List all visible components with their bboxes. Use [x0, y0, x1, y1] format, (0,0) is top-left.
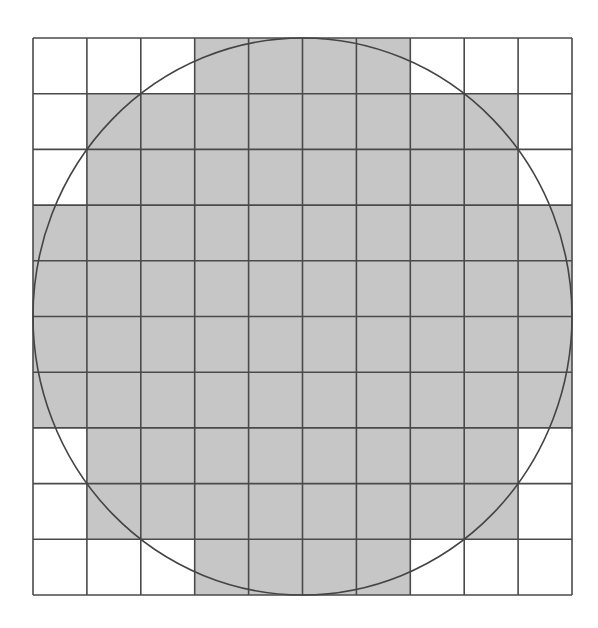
shaded-cell — [141, 94, 195, 150]
shaded-cell — [464, 149, 518, 205]
shaded-cell — [249, 261, 303, 317]
shaded-cell — [195, 261, 249, 317]
shaded-cell — [356, 94, 410, 150]
shaded-cell — [518, 372, 572, 428]
shaded-cell — [356, 205, 410, 261]
shaded-cell — [464, 372, 518, 428]
shaded-cell — [356, 317, 410, 373]
shaded-cell — [141, 317, 195, 373]
shaded-cell — [303, 94, 357, 150]
shaded-cell — [195, 372, 249, 428]
shaded-cell — [303, 484, 357, 540]
shaded-cell — [303, 205, 357, 261]
shaded-cell — [464, 428, 518, 484]
shaded-cell — [195, 484, 249, 540]
shaded-cell — [410, 261, 464, 317]
shaded-cell — [464, 94, 518, 150]
shaded-cell — [249, 428, 303, 484]
shaded-cell — [141, 205, 195, 261]
shaded-cell — [249, 539, 303, 595]
shaded-cell — [356, 428, 410, 484]
shaded-cell — [195, 149, 249, 205]
shaded-cell — [195, 317, 249, 373]
shaded-cell — [33, 261, 87, 317]
shaded-cell — [195, 428, 249, 484]
shaded-cell — [195, 94, 249, 150]
shaded-cell — [87, 149, 141, 205]
shaded-cell — [410, 372, 464, 428]
shaded-cell — [518, 261, 572, 317]
shaded-cell — [356, 484, 410, 540]
shaded-cell — [464, 261, 518, 317]
shaded-cell — [410, 428, 464, 484]
shaded-cell — [249, 94, 303, 150]
shaded-cell — [303, 261, 357, 317]
shaded-cell — [141, 484, 195, 540]
shaded-cell — [87, 372, 141, 428]
shaded-cell — [141, 428, 195, 484]
shaded-cell — [195, 539, 249, 595]
shaded-cell — [141, 261, 195, 317]
shaded-cell — [464, 484, 518, 540]
shaded-cell — [141, 372, 195, 428]
shaded-cell — [356, 372, 410, 428]
shaded-cell — [249, 149, 303, 205]
grid-circle-diagram — [0, 0, 598, 628]
shaded-cell — [518, 205, 572, 261]
shaded-cell — [303, 372, 357, 428]
shaded-cell — [356, 261, 410, 317]
shaded-cell — [141, 149, 195, 205]
shaded-cell — [518, 317, 572, 373]
shaded-cell — [87, 428, 141, 484]
shaded-cell — [303, 539, 357, 595]
shaded-cell — [249, 317, 303, 373]
shaded-cell — [464, 317, 518, 373]
shaded-cell — [410, 205, 464, 261]
shaded-cell — [410, 317, 464, 373]
shaded-cell — [410, 484, 464, 540]
shaded-cell — [195, 38, 249, 94]
shaded-cell — [410, 149, 464, 205]
shaded-cell — [303, 38, 357, 94]
shaded-cell — [303, 428, 357, 484]
shaded-cell — [87, 484, 141, 540]
shaded-cell — [87, 94, 141, 150]
shaded-cell — [303, 149, 357, 205]
shaded-cell — [249, 372, 303, 428]
shaded-cell — [356, 38, 410, 94]
shaded-cell — [410, 94, 464, 150]
shaded-cell — [195, 205, 249, 261]
shaded-cell — [87, 317, 141, 373]
shaded-cell — [33, 372, 87, 428]
shaded-cell — [33, 317, 87, 373]
shaded-cell — [249, 205, 303, 261]
shaded-cell — [464, 205, 518, 261]
shaded-cell — [87, 261, 141, 317]
shaded-cell — [33, 205, 87, 261]
shaded-cell — [356, 539, 410, 595]
shaded-cell — [87, 205, 141, 261]
shaded-cell — [303, 317, 357, 373]
shaded-cell — [249, 484, 303, 540]
shaded-cell — [356, 149, 410, 205]
shaded-cell — [249, 38, 303, 94]
